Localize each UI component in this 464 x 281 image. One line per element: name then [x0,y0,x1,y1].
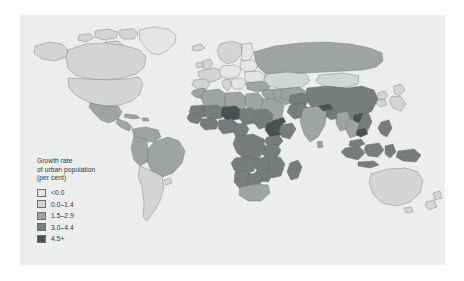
legend-item-1-5-2-9[interactable]: 1.5–2.9 [37,211,149,221]
legend-item-0-1-4[interactable]: 0.0–1.4 [37,199,149,209]
legend-swatch-1-5-2-9 [37,212,46,220]
map-figure: Growth rate of urban population (per cen… [20,15,445,265]
legend-label-lt-0: <0.0 [51,189,64,196]
legend-label-0-1-4: 0.0–1.4 [51,201,74,208]
region-sri-lanka [317,141,323,148]
region-hispaniola [142,118,149,121]
legend-label-4-5-plus: 4.5+ [51,235,64,242]
legend-swatch-lt-0 [37,189,46,197]
legend-item-4-5-plus[interactable]: 4.5+ [37,234,149,244]
map-legend: Growth rate of urban population (per cen… [37,157,149,245]
legend-swatch-3-0-4-4 [37,223,46,231]
legend-label-1-5-2-9: 1.5–2.9 [51,212,74,219]
legend-swatch-4-5-plus [37,235,46,243]
legend-label-3-0-4-4: 3.0–4.4 [51,224,74,231]
legend-title: Growth rate of urban population (per cen… [37,157,149,183]
legend-item-3-0-4-4[interactable]: 3.0–4.4 [37,222,149,232]
region-ireland [196,62,203,68]
legend-item-lt-0[interactable]: <0.0 [37,188,149,198]
region-russian-federation [254,42,383,74]
legend-swatch-0-1-4 [37,200,46,208]
region-canada [66,43,146,80]
